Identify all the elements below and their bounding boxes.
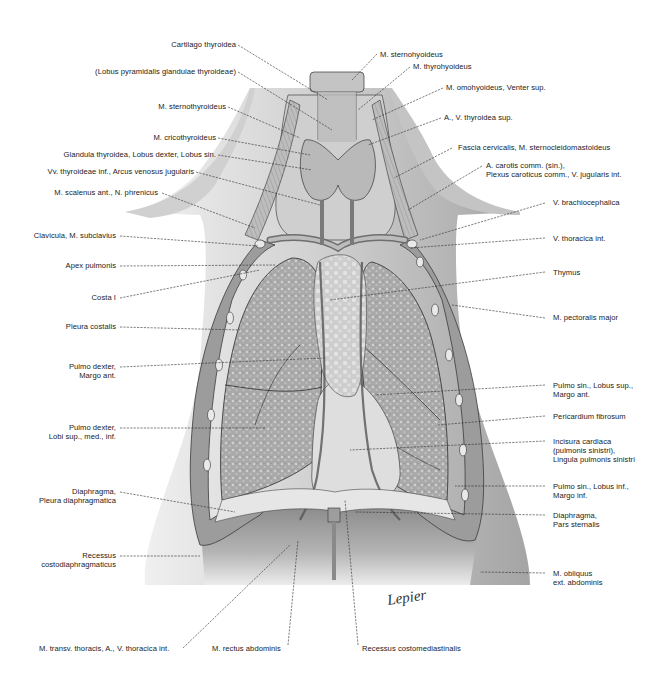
label-costa-i: Costa I (92, 293, 116, 302)
label-lobus-pyramidalis: (Lobus pyramidalis glandulae thyroideae) (95, 67, 236, 76)
label-incisura-cardiaca: Incisura cardiaca(pulmonis sinistri),Lin… (553, 437, 635, 465)
label-glandula-thyroidea: Glandula thyroidea, Lobus dexter, Lobus … (64, 150, 217, 159)
label-clavicula: Clavicula, M. subclavius (34, 231, 116, 240)
label-m-rectus-abdominis: M. rectus abdominis (212, 644, 281, 653)
label-fascia-cervicalis: Fascia cervicalis, M. sternocleidomastoi… (458, 143, 610, 152)
label-thymus: Thymus (553, 268, 580, 277)
label-m-omohyoideus: M. omohyoideus, Venter sup. (446, 83, 546, 92)
label-pulmo-sin-lobus-sup: Pulmo sin., Lobus sup.,Margo ant. (553, 381, 633, 399)
label-pleura-costalis: Pleura costalis (66, 322, 116, 331)
label-v-thoracica-int: V. thoracica int. (553, 234, 606, 243)
label-m-sternohyoideus: M. sternohyoideus (380, 50, 443, 59)
label-a-v-thyroidea-sup: A., V. thyroidea sup. (444, 113, 513, 122)
label-m-thyrohyoideus: M. thyrohyoideus (413, 62, 472, 71)
label-m-sternothyroideus: M. sternothyroideus (158, 102, 226, 111)
label-m-cricothyroideus: M. cricothyroideus (153, 133, 216, 142)
label-m-scalenus-ant: M. scalenus ant., N. phrenicus (54, 188, 158, 197)
label-cartilago-thyroidea: Cartilago thyroidea (171, 40, 236, 49)
label-v-brachiocephalica: V. brachiocephalica (553, 198, 620, 207)
label-vv-thyroideae-inf: Vv. thyroideae inf., Arcus venosus jugul… (48, 167, 194, 176)
label-pericardium-fibrosum: Pericardium fibrosum (553, 412, 626, 421)
label-m-obliquus: M. obliquusext. abdominis (553, 569, 603, 587)
label-m-pectoralis-major: M. pectoralis major (553, 313, 618, 322)
label-diaphragma-pleura: Diaphragma,Pleura diaphragmatica (39, 487, 116, 505)
label-pulmo-sin-lobus-inf: Pulmo sin., Lobus inf.,Margo inf. (553, 482, 629, 500)
label-recessus-costodiaphragmaticus: Recessuscostodiaphragmaticus (41, 551, 116, 569)
label-recessus-costomediastinalis: Recessus costomediastinalis (362, 644, 461, 653)
label-a-carotis-comm: A. carotis comm. (sin.),Plexus caroticus… (486, 161, 622, 179)
label-apex-pulmonis: Apex pulmonis (66, 261, 116, 270)
label-pulmo-dexter-margo: Pulmo dexter,Margo ant. (69, 362, 116, 380)
label-diaphragma-pars-sternalis: Diaphragma,Pars sternalis (553, 511, 600, 529)
label-m-transv-thoracis: M. transv. thoracis, A., V. thoracica in… (39, 644, 169, 653)
label-pulmo-dexter-lobi: Pulmo dexter,Lobi sup., med., inf. (49, 423, 116, 441)
